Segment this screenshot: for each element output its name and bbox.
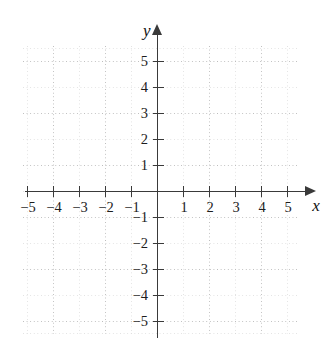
x-tick-label: 4 — [258, 200, 265, 215]
y-tick-label-text: 2 — [141, 132, 148, 147]
y-tick-label: 1 — [148, 158, 155, 173]
x-tick-label: −2 — [98, 200, 113, 215]
grid-line-horizontal — [23, 48, 299, 49]
x-axis-tick — [79, 186, 80, 197]
coordinate-plane-figure: −5 −4 −3 −2 −1 1 2 3 4 5 5 4 3 2 1 −1 −2… — [0, 0, 334, 345]
y-axis-arrow-icon — [152, 24, 162, 35]
x-axis-tick — [235, 186, 236, 197]
x-axis-tick — [53, 186, 54, 197]
x-axis-tick — [131, 186, 132, 197]
x-axis-tick — [183, 186, 184, 197]
y-tick-label: −4 — [148, 288, 163, 303]
y-tick-label: 5 — [148, 54, 155, 69]
grid-line-horizontal — [23, 333, 299, 334]
y-tick-label-text: −5 — [133, 314, 148, 329]
y-tick-label: 4 — [148, 80, 155, 95]
x-axis-tick — [27, 186, 28, 197]
x-tick-label: −5 — [20, 200, 35, 215]
x-axis-line — [25, 191, 308, 192]
x-axis-tick — [105, 186, 106, 197]
y-tick-label-text: −2 — [133, 236, 148, 251]
x-axis-tick — [209, 186, 210, 197]
x-tick-label: 1 — [180, 200, 187, 215]
x-axis-tick — [287, 186, 288, 197]
y-tick-label: −5 — [148, 314, 163, 329]
x-tick-label: 3 — [232, 200, 239, 215]
y-tick-label-text: 4 — [141, 80, 148, 95]
x-axis-tick — [261, 186, 262, 197]
y-tick-label: −2 — [148, 236, 163, 251]
x-tick-label: −4 — [46, 200, 61, 215]
x-tick-label: 5 — [284, 200, 291, 215]
x-tick-label: −3 — [72, 200, 87, 215]
y-tick-label-text: 3 — [141, 106, 148, 121]
y-tick-label-text: −1 — [133, 210, 148, 225]
y-axis-label: y — [143, 21, 151, 41]
y-tick-label: 2 — [148, 132, 155, 147]
y-tick-label: 3 — [148, 106, 155, 121]
y-tick-label: −1 — [148, 210, 163, 225]
y-tick-label-text: −3 — [133, 262, 148, 277]
y-tick-label-text: −4 — [133, 288, 148, 303]
x-tick-label: 2 — [206, 200, 213, 215]
y-tick-label-text: 1 — [141, 158, 148, 173]
y-tick-label: −3 — [148, 262, 163, 277]
y-tick-label-text: 5 — [141, 54, 148, 69]
x-axis-arrow-icon — [305, 186, 316, 196]
x-axis-label: x — [312, 196, 320, 216]
